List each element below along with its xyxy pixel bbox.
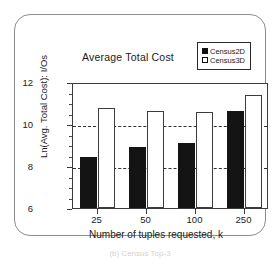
bar-Census2D-50: [129, 147, 146, 208]
bar-Census3D-50: [147, 111, 164, 208]
y-axis-title: Ln(Avg. Total Cost): I/Os: [38, 45, 49, 169]
x-tick-label-25: 25: [77, 214, 117, 225]
y-tick-label-8: 8: [13, 161, 33, 172]
chart-title: Average Total Cost: [53, 51, 203, 63]
y-tick-label-12: 12: [13, 77, 33, 88]
x-axis-title: Number of tuples requested, k: [43, 229, 269, 240]
chart-legend: Census2D Census3D: [197, 42, 251, 70]
legend-entry-census3d: Census3D: [202, 57, 245, 65]
x-tick-label-100: 100: [175, 214, 215, 225]
bar-Census2D-100: [178, 143, 195, 208]
bar-group-100: [171, 84, 220, 208]
y-tick-label-6: 6: [13, 203, 33, 214]
bars-layer: [73, 84, 267, 208]
bar-Census2D-25: [80, 157, 97, 208]
legend-label-census2d: Census2D: [210, 48, 245, 56]
bar-Census3D-25: [98, 108, 115, 208]
plot-area: [72, 83, 268, 209]
legend-label-census3d: Census3D: [210, 57, 245, 65]
y-tick-label-10: 10: [13, 119, 33, 130]
bar-group-250: [220, 84, 269, 208]
bar-Census2D-250: [227, 111, 244, 208]
x-tick-label-50: 50: [126, 214, 166, 225]
x-tick-label-250: 250: [224, 214, 264, 225]
bar-group-25: [73, 84, 122, 208]
figure-frame: Average Total Cost Census2D Census3D Ln(…: [14, 14, 266, 236]
figure-caption: (b) Census Top-3: [0, 249, 280, 260]
legend-entry-census2d: Census2D: [202, 48, 245, 56]
bar-group-50: [122, 84, 171, 208]
legend-swatch-filled-icon: [202, 48, 208, 54]
bar-Census3D-250: [245, 95, 262, 208]
legend-swatch-hollow-icon: [202, 57, 208, 63]
y-tick-mark-6: [67, 209, 72, 210]
bar-Census3D-100: [196, 112, 213, 208]
